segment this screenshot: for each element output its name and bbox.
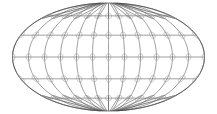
map-projection-figure: Mollweide projection graticule with Tiss… xyxy=(0,0,217,114)
projection-canvas: Mollweide projection graticule with Tiss… xyxy=(0,0,217,114)
graticule-group xyxy=(13,3,205,111)
